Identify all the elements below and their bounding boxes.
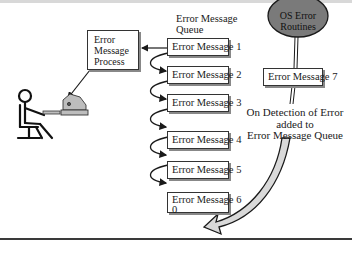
keyboard-icon xyxy=(43,111,60,114)
queue-title-line1: Error Message xyxy=(176,13,238,24)
queue-item-6: Error Message 6 0 xyxy=(167,192,229,213)
queue-item-label: Error Message 3 xyxy=(172,97,241,108)
os-label-line2: Routines xyxy=(268,21,328,32)
queue-item-5: Error Message 5 xyxy=(167,161,229,179)
printer-icon xyxy=(61,94,88,115)
new-message-label: Error Message 7 xyxy=(268,71,337,82)
queue-item-1: Error Message 1 xyxy=(167,38,229,56)
queue-title-line2: Queue xyxy=(176,24,238,35)
detection-annotation: On Detection of Error added to Error Mes… xyxy=(240,107,350,142)
queue-item-label: Error Message 6 xyxy=(172,195,224,205)
queue-item-label: Error Message 2 xyxy=(172,69,241,80)
queue-links xyxy=(150,53,168,183)
queue-item-sublabel: 0 xyxy=(172,205,224,215)
queue-item-label: Error Message 5 xyxy=(172,164,241,175)
bottom-rule xyxy=(0,238,352,240)
queue-item-label: Error Message 4 xyxy=(172,134,241,145)
queue-item-4: Error Message 4 xyxy=(167,131,229,149)
os-label-line1: OS Error xyxy=(268,10,328,21)
process-label-line2: Message xyxy=(94,45,132,56)
process-to-printer-arrow xyxy=(68,70,90,98)
add-to-queue-arrow xyxy=(204,138,290,234)
error-message-process-box: Error Message Process xyxy=(87,30,139,70)
annotation-line3: Error Message Queue xyxy=(240,130,350,142)
annotation-line1: On Detection of Error xyxy=(240,107,350,119)
queue-item-3: Error Message 3 xyxy=(167,94,229,112)
process-label-line1: Error xyxy=(94,34,132,45)
process-label-line3: Process xyxy=(94,56,132,67)
new-error-message-box: Error Message 7 xyxy=(263,68,323,86)
os-error-routines-label: OS Error Routines xyxy=(268,10,328,32)
queue-title: Error Message Queue xyxy=(176,13,238,35)
queue-item-2: Error Message 2 xyxy=(167,66,229,84)
queue-item-label: Error Message 1 xyxy=(172,41,241,52)
